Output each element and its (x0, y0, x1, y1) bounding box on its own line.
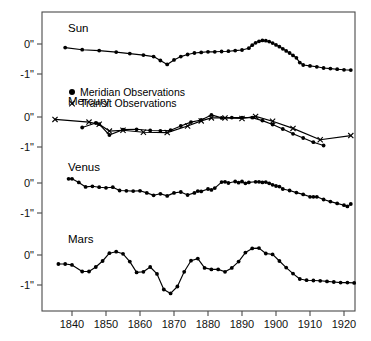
legend-circle-icon (69, 89, 75, 95)
data-point-dot (186, 193, 190, 197)
data-point-dot (162, 288, 166, 292)
data-point-dot (312, 195, 316, 199)
data-point-dot (121, 252, 125, 256)
data-point-dot (87, 270, 91, 274)
data-point-dot (322, 66, 326, 70)
data-point-dot (281, 47, 285, 51)
data-point-dot (213, 50, 217, 54)
data-point-dot (339, 281, 343, 285)
series-mercury-1 (52, 114, 353, 143)
data-point-dot (57, 262, 61, 266)
data-point-dot (278, 45, 282, 49)
x-tick-label: 1870 (162, 318, 186, 330)
data-point-dot (267, 40, 271, 44)
data-point-dot (274, 184, 278, 188)
data-point-dot (291, 132, 295, 136)
data-point-dot (155, 272, 159, 276)
data-point-dot (169, 292, 173, 296)
data-point-dot (128, 260, 132, 264)
data-point-dot (196, 189, 200, 193)
data-point-dot (264, 252, 268, 256)
data-point-dot (308, 195, 312, 199)
y-tick-label: 0" (24, 38, 34, 50)
data-point-dot (186, 53, 190, 57)
data-point-dot (142, 53, 146, 57)
data-point-dot (77, 181, 81, 185)
data-point-dot (284, 266, 288, 270)
data-point-dot (227, 49, 231, 53)
data-point-dot (159, 59, 163, 63)
data-point-dot (67, 177, 71, 181)
data-point-dot (264, 180, 268, 184)
data-point-dot (152, 193, 156, 197)
data-point-dot (335, 202, 339, 206)
data-point-dot (244, 181, 248, 185)
data-point-dot (203, 266, 207, 270)
data-point-dot (70, 263, 74, 267)
data-point-dot (288, 189, 292, 193)
data-point-dot (261, 39, 265, 43)
data-point-dot (176, 285, 180, 289)
chart-figure: 1840185018601870188018901900191019200"-1… (0, 0, 371, 341)
panel-venus: 0"-1"Venus (20, 161, 352, 219)
data-point-dot (213, 186, 217, 190)
data-point-dot (145, 191, 149, 195)
series-line (69, 179, 351, 207)
data-point-dot (125, 189, 129, 193)
x-tick-label: 1880 (196, 318, 220, 330)
data-point-dot (148, 265, 152, 269)
data-point-dot (223, 270, 227, 274)
data-point-dot (329, 200, 333, 204)
data-point-dot (210, 188, 214, 192)
data-point-dot (114, 250, 118, 254)
data-point-dot (301, 63, 305, 67)
x-tick-label: 1890 (230, 318, 254, 330)
data-point-dot (281, 187, 285, 191)
data-point-dot (335, 67, 339, 71)
legend-label: Transit Observations (80, 97, 176, 109)
data-point-dot (104, 186, 108, 190)
data-point-dot (247, 46, 251, 50)
data-point-dot (63, 262, 67, 266)
data-point-dot (237, 260, 241, 264)
data-point-dot (250, 247, 254, 251)
data-point-dot (257, 180, 261, 184)
x-tick-label: 1910 (298, 318, 322, 330)
data-point-dot (223, 180, 227, 184)
planetary-residuals-chart: 1840185018601870188018901900191019200"-1… (0, 0, 371, 341)
panel-mercury: 0"-1"Mercury (20, 95, 353, 153)
data-point-dot (349, 68, 353, 72)
data-point-dot (227, 181, 231, 185)
x-tick-label: 1900 (264, 318, 288, 330)
data-point-dot (312, 279, 316, 283)
data-point-dot (63, 46, 67, 50)
data-point-dot (189, 259, 193, 263)
data-point-dot (264, 39, 268, 43)
data-point-dot (305, 278, 309, 282)
data-point-dot (346, 205, 350, 209)
data-point-dot (278, 259, 282, 263)
data-point-dot (199, 190, 203, 194)
series-sun-0 (63, 39, 352, 73)
data-point-dot (254, 41, 258, 45)
data-point-dot (352, 281, 356, 285)
chart-legend: Meridian ObservationsTransit Observation… (69, 86, 185, 110)
x-tick-label: 1860 (128, 318, 152, 330)
data-point-dot (240, 180, 244, 184)
data-point-dot (216, 268, 220, 272)
x-axis: 184018501860187018801890190019101920 (60, 311, 356, 330)
data-point-dot (233, 49, 237, 53)
data-point-dot (315, 195, 319, 199)
series-line (65, 40, 351, 70)
data-point-dot (97, 49, 101, 53)
data-point-dot (332, 280, 336, 284)
data-point-dot (346, 281, 350, 285)
legend-label: Meridian Observations (80, 86, 185, 98)
data-point-dot (267, 181, 271, 185)
data-point-dot (284, 49, 288, 53)
series-line (58, 248, 354, 293)
y-tick-label: -1" (20, 279, 34, 291)
y-tick-label: -1" (20, 68, 34, 80)
data-point-dot (288, 51, 292, 55)
panel-title-venus: Venus (68, 161, 100, 173)
